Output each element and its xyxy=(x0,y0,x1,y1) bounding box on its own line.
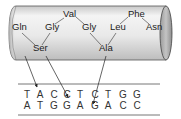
amino-acid-label: Asn xyxy=(146,21,162,32)
amino-acid-label: Gly xyxy=(45,21,60,32)
nucleotide: C xyxy=(133,100,140,111)
amino-acid-label: Gln xyxy=(12,21,27,32)
cylinder-end-cap xyxy=(160,6,172,60)
nucleotide: A xyxy=(105,100,112,111)
nucleotide: T xyxy=(77,89,83,100)
nucleotide: C xyxy=(91,89,98,100)
nucleotide: C xyxy=(119,100,126,111)
nucleotide: A xyxy=(24,100,31,111)
amino-acid-label: Ser xyxy=(33,42,48,53)
protein-dna-diagram: Gln Gly Val Gly Leu Phe Asn Ser Ala T A … xyxy=(0,0,181,119)
amino-acid-label: Ala xyxy=(99,42,113,53)
nucleotide: T xyxy=(37,100,43,111)
nucleotide: T xyxy=(105,89,111,100)
nucleotide: G xyxy=(133,89,141,100)
nucleotide: C xyxy=(50,89,57,100)
amino-acid-label: Leu xyxy=(110,21,126,32)
amino-acid-label: Phe xyxy=(128,8,145,19)
arrow-gln-to-dna xyxy=(25,56,37,87)
nucleotide: A xyxy=(37,89,44,100)
nucleotide: A xyxy=(77,100,84,111)
amino-acid-label: Val xyxy=(63,8,76,19)
nucleotide: C xyxy=(63,89,70,100)
nucleotide: T xyxy=(24,89,30,100)
amino-acid-label: Gly xyxy=(82,21,97,32)
nucleotide: G xyxy=(91,100,99,111)
dna-bottom-strand: A T G G A G A C C xyxy=(24,100,141,111)
nucleotide: G xyxy=(50,100,58,111)
nucleotide: G xyxy=(119,89,127,100)
nucleotide: G xyxy=(63,100,71,111)
dna-top-strand: T A C C T C T G G xyxy=(24,89,141,100)
